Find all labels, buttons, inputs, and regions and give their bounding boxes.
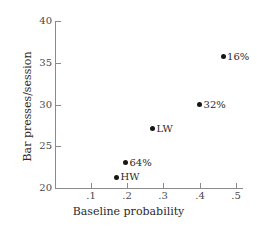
x-tick-mark — [127, 183, 128, 188]
x-tick-mark — [163, 183, 164, 188]
y-tick-mark — [56, 146, 61, 147]
y-tick-mark — [56, 188, 61, 189]
y-tick-mark — [56, 63, 61, 64]
data-point-label: HW — [120, 172, 139, 182]
plot-area: 2025303540 .1.2.3.4.5 HW64%LW32%16% — [0, 0, 257, 226]
y-tick-label-text: 40 — [30, 16, 52, 26]
data-point-label: 32% — [204, 100, 226, 110]
x-tick-mark — [200, 183, 201, 188]
x-tick-label: .1 — [81, 190, 101, 202]
x-tick-mark — [236, 183, 237, 188]
scatter-chart: 2025303540 .1.2.3.4.5 HW64%LW32%16% Base… — [0, 0, 257, 226]
x-axis-title: Baseline probability — [0, 205, 257, 218]
x-tick-label: .2 — [117, 190, 137, 202]
data-point-marker — [114, 175, 119, 180]
y-axis-title: Bar presses/session — [21, 27, 34, 187]
x-tick-label: .4 — [190, 190, 210, 202]
data-point-marker — [221, 54, 226, 59]
data-point-label: 16% — [227, 52, 249, 62]
y-tick-mark — [56, 21, 61, 22]
x-tick-mark — [91, 183, 92, 188]
x-tick-label: .3 — [153, 190, 173, 202]
data-point-marker — [197, 102, 202, 107]
y-tick-mark — [56, 105, 61, 106]
x-axis-line — [55, 188, 243, 189]
x-tick-label: .5 — [226, 190, 246, 202]
data-point-marker — [123, 160, 128, 165]
data-point-label: LW — [157, 124, 173, 134]
y-tick-label: 40 — [26, 16, 52, 26]
data-point-marker — [150, 126, 155, 131]
data-point-label: 64% — [130, 158, 152, 168]
